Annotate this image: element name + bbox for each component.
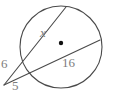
label-external-segment-upper: 6 bbox=[1, 57, 8, 70]
center-dot-icon bbox=[59, 41, 63, 45]
label-external-segment-lower: 5 bbox=[12, 79, 19, 92]
circle-outline bbox=[20, 6, 102, 88]
label-chord-unknown: x bbox=[40, 26, 46, 39]
geometry-figure: x 16 6 5 bbox=[0, 0, 113, 97]
label-chord-known: 16 bbox=[62, 56, 75, 69]
secant-line-upper bbox=[4, 7, 66, 85]
